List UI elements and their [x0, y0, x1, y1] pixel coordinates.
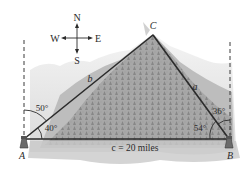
angle-54-label: 54° [194, 123, 207, 133]
angle-36-label: 36° [213, 106, 226, 116]
arrow-north-icon [75, 23, 79, 28]
side-c-label: c = 20 miles [112, 143, 159, 153]
triangle-diagram: N S W E C A B b a c = 20 miles 50° 40° 5… [0, 0, 252, 174]
vertex-a-label: A [18, 150, 26, 161]
vertex-c-label: C [150, 20, 157, 31]
station-a-icon [20, 136, 28, 148]
angle-50-label: 50° [36, 103, 49, 113]
arrow-south-icon [75, 49, 79, 54]
compass-rose: N S W E [50, 12, 101, 66]
compass-south-label: S [74, 55, 80, 66]
arrow-west-icon [61, 36, 66, 40]
side-a-label: a [193, 81, 198, 92]
compass-north-label: N [73, 12, 80, 23]
arrow-east-icon [88, 36, 93, 40]
diagram-canvas: N S W E C A B b a c = 20 miles 50° 40° 5… [0, 0, 252, 174]
vertex-b-label: B [227, 150, 233, 161]
angle-40-label: 40° [45, 123, 58, 133]
side-b-label: b [88, 73, 93, 84]
compass-west-label: W [50, 33, 60, 44]
station-b-icon [225, 136, 233, 148]
compass-east-label: E [95, 33, 101, 44]
